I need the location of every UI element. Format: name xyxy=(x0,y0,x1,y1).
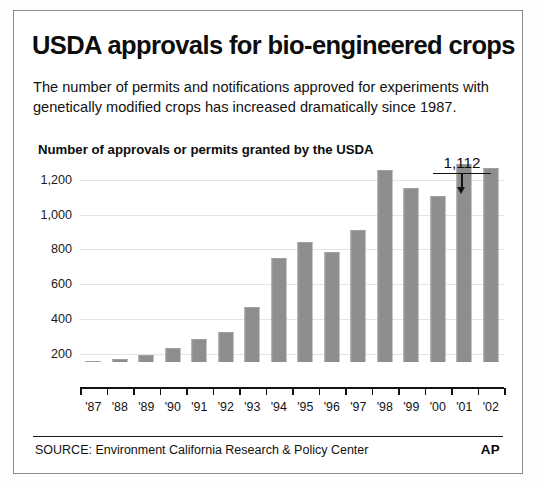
x-axis-tick-label: '93 xyxy=(244,400,260,414)
source-credit: SOURCE: Environment California Research … xyxy=(35,443,368,457)
x-axis-tick xyxy=(451,388,453,395)
infographic-screenshot: USDA approvals for bio-engineered crops … xyxy=(0,0,537,487)
chart-bar-slot xyxy=(80,169,107,387)
x-axis-tick xyxy=(425,388,427,395)
chart-bar-slot xyxy=(107,169,134,387)
chart-bar-slot xyxy=(345,169,372,387)
x-axis-tick-label: '01 xyxy=(456,400,472,414)
chart-bar-slot xyxy=(372,169,399,387)
x-axis-tick-label: '98 xyxy=(377,400,393,414)
chart-bar xyxy=(218,332,233,362)
x-axis-tick-label: '88 xyxy=(112,400,128,414)
chart-bar xyxy=(165,348,180,362)
x-axis-tick-label: '96 xyxy=(324,400,340,414)
y-axis-tick-label: 400 xyxy=(28,312,72,326)
x-axis-tick xyxy=(160,388,162,395)
chart-axis-title: Number of approvals or permits granted b… xyxy=(38,142,374,157)
x-axis-tick-label: '99 xyxy=(403,400,419,414)
chart-bar xyxy=(483,168,498,362)
chart-bar xyxy=(245,307,260,362)
chart-bar xyxy=(86,361,101,363)
chart-bar xyxy=(139,355,154,362)
page-title: USDA approvals for bio-engineered crops xyxy=(32,31,515,60)
x-axis-tick-label: '92 xyxy=(218,400,234,414)
chart-bar-slot xyxy=(292,169,319,387)
chart-bar xyxy=(430,196,445,362)
x-axis-tick xyxy=(372,388,374,395)
x-axis-tick xyxy=(504,388,506,395)
subtitle-text: The number of permits and notifications … xyxy=(33,78,501,117)
x-axis-tick xyxy=(292,388,294,395)
x-axis-tick-label: '97 xyxy=(350,400,366,414)
x-axis-tick-label: '89 xyxy=(138,400,154,414)
chart-bars xyxy=(80,169,504,387)
chart-bar-slot xyxy=(186,169,213,387)
x-axis-tick-label: '94 xyxy=(271,400,287,414)
callout-value-label: 1,112 xyxy=(428,154,496,171)
chart-plot-area: 2004006008001,0001,200 '87'88'89'90'91'9… xyxy=(28,169,510,414)
x-axis-tick xyxy=(239,388,241,395)
x-axis-tick xyxy=(133,388,135,395)
chart-bar-slot xyxy=(478,169,505,387)
chart-bar xyxy=(351,230,366,362)
chart-bar xyxy=(298,242,313,362)
x-axis-tick xyxy=(80,388,82,395)
x-axis-tick xyxy=(213,388,215,395)
x-axis-tick xyxy=(398,388,400,395)
infographic-inner: USDA approvals for bio-engineered crops … xyxy=(14,11,522,473)
x-axis-tick xyxy=(478,388,480,395)
callout-arrow-icon xyxy=(457,187,465,194)
x-axis-tick xyxy=(319,388,321,395)
x-axis-tick xyxy=(345,388,347,395)
x-axis-tick-label: '91 xyxy=(191,400,207,414)
chart-bar-slot xyxy=(213,169,240,387)
y-axis-tick-label: 800 xyxy=(28,242,72,256)
x-axis-tick xyxy=(186,388,188,395)
y-axis-tick-label: 600 xyxy=(28,277,72,291)
chart-bar-slot xyxy=(266,169,293,387)
chart-bar-slot xyxy=(160,169,187,387)
x-axis-tick-label: '95 xyxy=(297,400,313,414)
chart-bar xyxy=(324,252,339,362)
chart-bar-slot xyxy=(239,169,266,387)
chart-bar-slot xyxy=(451,169,478,387)
chart-bar xyxy=(377,170,392,362)
chart-bar xyxy=(112,359,127,362)
x-axis-tick xyxy=(107,388,109,395)
chart-bar xyxy=(271,258,286,362)
chart-bar-slot xyxy=(133,169,160,387)
chart-bar xyxy=(192,339,207,362)
x-axis-tick-label: '00 xyxy=(430,400,446,414)
chart-bar-slot xyxy=(398,169,425,387)
x-axis-tick-label: '90 xyxy=(165,400,181,414)
x-axis-tick-label: '02 xyxy=(483,400,499,414)
x-axis-tick xyxy=(266,388,268,395)
chart-annotation-callout: 1,112 xyxy=(428,154,496,194)
y-axis-tick-label: 1,200 xyxy=(28,173,72,187)
y-axis-tick-label: 200 xyxy=(28,347,72,361)
chart-bar-slot xyxy=(425,169,452,387)
y-axis-tick-label: 1,000 xyxy=(28,208,72,222)
footer-divider xyxy=(33,436,503,437)
infographic-frame: USDA approvals for bio-engineered crops … xyxy=(13,10,523,474)
chart-bar xyxy=(404,188,419,362)
chart-bar-slot xyxy=(319,169,346,387)
ap-logo: AP xyxy=(481,442,500,457)
x-axis-tick-label: '87 xyxy=(85,400,101,414)
